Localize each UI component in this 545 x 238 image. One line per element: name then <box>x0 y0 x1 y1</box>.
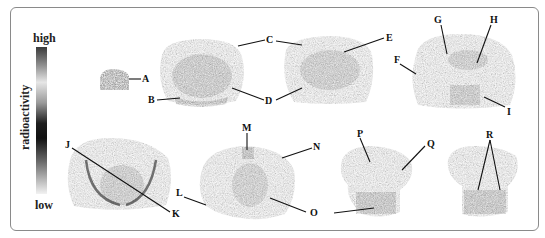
label-k: K <box>172 208 180 219</box>
colorbar: high low radioactivity <box>18 31 56 212</box>
section-7: P Q <box>334 128 435 217</box>
label-q: Q <box>427 138 435 149</box>
label-a: A <box>142 73 150 84</box>
section-2: B C D <box>148 34 273 107</box>
label-f: F <box>394 54 400 65</box>
figure-canvas: high low radioactivity A B C D <box>0 0 545 238</box>
label-c: C <box>266 34 273 45</box>
section-3: E <box>276 32 393 104</box>
label-i: I <box>507 106 511 117</box>
label-j: J <box>65 139 70 150</box>
section-8: R <box>448 129 518 217</box>
label-d: D <box>265 95 272 106</box>
colorbar-gradient <box>36 47 47 194</box>
label-e: E <box>386 32 393 43</box>
section-4: F G H I <box>394 14 516 117</box>
section-6: L M N O <box>176 122 321 219</box>
colorbar-high-label: high <box>33 31 56 45</box>
label-p: P <box>357 128 363 139</box>
section-a: A <box>100 69 150 90</box>
label-o: O <box>310 207 318 218</box>
autoradiography-figure: high low radioactivity A B C D <box>0 0 545 238</box>
label-b: B <box>148 94 155 105</box>
section-5: J K <box>65 138 180 219</box>
colorbar-title: radioactivity <box>18 85 32 150</box>
label-l: L <box>176 187 183 198</box>
label-n: N <box>313 141 321 152</box>
colorbar-low-label: low <box>35 198 53 212</box>
label-m: M <box>242 122 252 133</box>
label-r: R <box>486 129 494 140</box>
label-g: G <box>434 14 442 25</box>
label-h: H <box>490 14 498 25</box>
